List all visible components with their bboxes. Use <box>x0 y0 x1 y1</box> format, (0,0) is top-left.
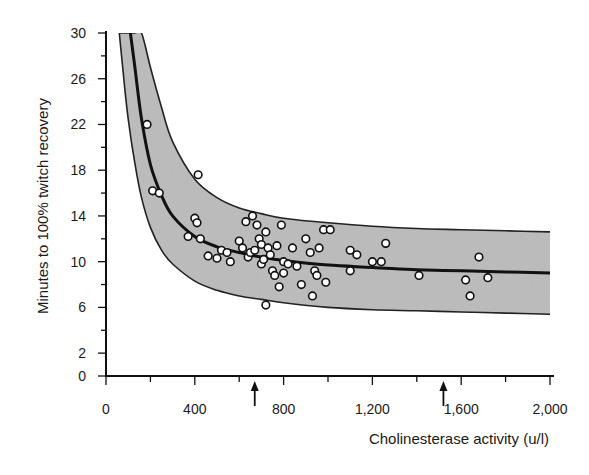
y-tick-label: 26 <box>70 71 86 87</box>
data-point <box>227 258 235 266</box>
data-point <box>306 249 314 257</box>
data-point <box>293 262 301 270</box>
data-point <box>184 233 192 241</box>
y-tick-label: 22 <box>70 116 86 132</box>
x-tick-label: 1,200 <box>355 401 390 417</box>
y-tick-label: 14 <box>70 208 86 224</box>
data-point <box>377 258 385 266</box>
data-point <box>353 251 361 259</box>
data-point <box>313 272 321 280</box>
x-tick-label: 0 <box>102 401 110 417</box>
y-tick-label: 30 <box>70 25 86 41</box>
y-axis-title: Minutes to 100% twitch recovery <box>34 98 51 314</box>
data-point <box>322 278 330 286</box>
data-point <box>369 258 377 266</box>
data-point <box>194 171 202 179</box>
data-point <box>271 272 279 280</box>
y-tick-label: 6 <box>78 299 86 315</box>
data-point <box>239 244 247 252</box>
y-tick-label: 10 <box>70 254 86 270</box>
data-point <box>213 254 221 262</box>
data-point <box>266 251 274 259</box>
x-tick-label: 800 <box>272 401 296 417</box>
data-point <box>466 292 474 300</box>
data-point <box>275 283 283 291</box>
data-point <box>197 235 205 243</box>
data-point <box>253 221 261 229</box>
data-point <box>475 253 483 261</box>
data-point <box>315 244 323 252</box>
data-point <box>242 218 250 226</box>
data-point <box>155 189 163 197</box>
data-point <box>223 249 231 257</box>
data-point <box>284 260 292 268</box>
data-point <box>251 246 259 254</box>
arrow-up-icon <box>251 381 259 391</box>
data-point <box>326 226 334 234</box>
x-tick-label: 400 <box>183 401 207 417</box>
data-point <box>462 276 470 284</box>
data-point <box>346 267 354 275</box>
arrow-up-icon <box>439 381 447 391</box>
x-tick-label: 2,000 <box>532 401 567 417</box>
x-axis-title: Cholinesterase activity (u/l) <box>369 430 549 447</box>
y-tick-label: 2 <box>78 345 86 361</box>
data-point <box>415 272 423 280</box>
data-point <box>262 228 270 236</box>
x-tick-label: 1,600 <box>444 401 479 417</box>
y-tick-label: 18 <box>70 162 86 178</box>
data-point <box>302 235 310 243</box>
data-point <box>143 121 151 129</box>
data-point <box>249 212 257 220</box>
data-point <box>280 269 288 277</box>
data-point <box>298 281 306 289</box>
data-point <box>382 240 390 248</box>
data-point <box>193 219 201 227</box>
data-point <box>204 252 212 260</box>
data-point <box>278 221 286 229</box>
data-point <box>262 301 270 309</box>
y-tick-label: 0 <box>78 368 86 384</box>
scatter-chart: 02610141822263004008001,2001,6002,000 Ch… <box>0 0 589 475</box>
data-point <box>484 274 492 282</box>
data-point <box>309 292 317 300</box>
data-point <box>289 244 297 252</box>
data-point <box>273 242 281 250</box>
